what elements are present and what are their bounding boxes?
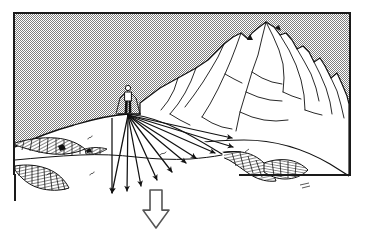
scene-svg xyxy=(0,0,365,245)
illustration-root: Avalanche slope fall-line diagram A skie… xyxy=(0,0,365,245)
